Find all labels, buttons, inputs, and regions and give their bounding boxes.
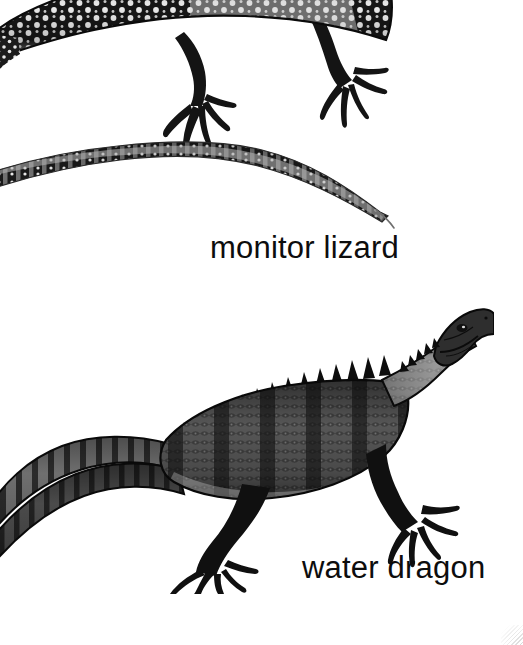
water-dragon-eye <box>457 324 468 332</box>
figure-panel: monitor lizard <box>0 0 523 645</box>
corner-smudge-artifact <box>501 625 523 645</box>
monitor-lizard-tail <box>0 134 410 229</box>
water-dragon-fore-limb <box>366 444 460 567</box>
water-dragon-head <box>400 309 494 372</box>
water-dragon-hind-limb <box>170 484 270 594</box>
monitor-lizard-hind-limb <box>163 32 237 146</box>
water-dragon-label: water dragon <box>302 551 485 585</box>
monitor-lizard-body <box>0 0 410 76</box>
monitor-lizard-label: monitor lizard <box>210 231 399 265</box>
water-dragon-illustration <box>0 294 494 594</box>
water-dragon-drawing <box>0 294 494 594</box>
